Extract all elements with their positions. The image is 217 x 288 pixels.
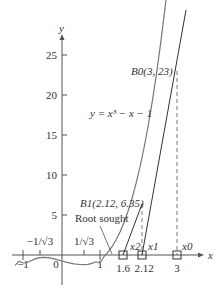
pos-inv-sqrt3-label: 1/√3 (74, 235, 95, 247)
b0-label: B0(3, 23) (131, 65, 173, 78)
y-tick-10: 10 (46, 169, 58, 181)
newton-method-chart: x y 25 20 15 10 5 −1 0 1 1.6 2.12 3 −1/√… (0, 0, 217, 288)
y-tick-25: 25 (46, 49, 58, 61)
y-tick-20: 20 (46, 89, 58, 101)
y-tick-15: 15 (46, 129, 58, 141)
tangent-b0 (142, 10, 186, 255)
root-sought-pointer (100, 226, 112, 254)
x2-label: x2 (129, 240, 141, 252)
x-tick-2.12: 2.12 (134, 262, 153, 274)
x0-label: x0 (181, 240, 193, 252)
x-axis-arrow-icon (198, 253, 204, 258)
y-axis-label: y (58, 22, 64, 34)
y-ticks (62, 55, 67, 215)
root-sought-label: Root sought (75, 212, 128, 224)
b1-label: B1(2.12, 6.35) (80, 197, 144, 210)
y-axis-arrow-icon (60, 34, 65, 40)
function-curve (15, 0, 166, 265)
x-tick-1.6: 1.6 (116, 262, 130, 274)
function-label: y = x³ − x − 1 (89, 107, 152, 119)
x-tick-neg1: −1 (17, 258, 29, 270)
x-axis-label: x (207, 249, 213, 261)
x-tick-3: 3 (174, 262, 180, 274)
x1-label: x1 (147, 240, 158, 252)
y-tick-5: 5 (52, 209, 58, 221)
neg-inv-sqrt3-label: −1/√3 (27, 235, 54, 247)
